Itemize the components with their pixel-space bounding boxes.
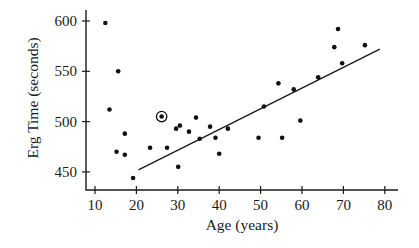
data-point bbox=[107, 107, 112, 112]
x-tick-label: 70 bbox=[336, 197, 351, 213]
y-axis-title-group: Erg Time (seconds) bbox=[24, 37, 42, 158]
x-tick-label: 20 bbox=[129, 197, 144, 213]
x-axis-title: Age (years) bbox=[206, 216, 279, 234]
data-point bbox=[187, 129, 192, 134]
data-points bbox=[103, 21, 367, 181]
data-point bbox=[262, 104, 267, 109]
data-point bbox=[363, 43, 368, 48]
data-point bbox=[332, 45, 337, 50]
x-tick-label: 80 bbox=[377, 197, 392, 213]
data-point bbox=[178, 123, 183, 128]
data-point bbox=[276, 81, 281, 86]
data-point bbox=[316, 75, 321, 80]
y-tick-label: 450 bbox=[55, 164, 78, 180]
x-tick-label: 30 bbox=[170, 197, 185, 213]
x-tick-label: 50 bbox=[253, 197, 268, 213]
regression-line bbox=[138, 49, 379, 170]
data-point bbox=[114, 149, 119, 154]
highlighted-data-point bbox=[159, 114, 164, 119]
x-tick-label: 60 bbox=[295, 197, 310, 213]
y-axis-title: Erg Time (seconds) bbox=[24, 37, 42, 158]
data-point bbox=[280, 135, 285, 140]
data-point bbox=[148, 145, 153, 150]
scatter-chart: Erg Time (seconds) Age (years) 450500550… bbox=[0, 0, 419, 248]
least-squares-line bbox=[138, 49, 379, 170]
axis-lines bbox=[86, 10, 398, 190]
data-point bbox=[226, 126, 231, 131]
data-point bbox=[116, 69, 121, 74]
data-point bbox=[208, 124, 213, 129]
data-point bbox=[174, 126, 179, 131]
y-tick-label: 600 bbox=[55, 13, 78, 29]
data-point bbox=[123, 152, 128, 157]
data-point bbox=[217, 151, 222, 156]
data-point bbox=[213, 135, 218, 140]
data-point bbox=[123, 131, 128, 136]
data-point bbox=[336, 27, 341, 32]
data-point bbox=[340, 61, 345, 66]
y-tick-label: 500 bbox=[55, 114, 78, 130]
x-tick-label: 40 bbox=[212, 197, 227, 213]
data-point bbox=[291, 87, 296, 92]
data-point bbox=[165, 145, 170, 150]
data-point bbox=[298, 118, 303, 123]
axes bbox=[86, 10, 398, 190]
y-axis-ticks: 450500550600 bbox=[55, 13, 91, 180]
data-point bbox=[194, 115, 199, 120]
data-point bbox=[176, 165, 181, 170]
y-tick-label: 550 bbox=[55, 63, 78, 79]
data-point bbox=[103, 21, 108, 26]
x-tick-label: 10 bbox=[88, 197, 103, 213]
data-point bbox=[131, 176, 136, 181]
data-point bbox=[197, 136, 202, 141]
data-point bbox=[256, 135, 261, 140]
